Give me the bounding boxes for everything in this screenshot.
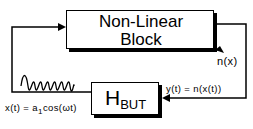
arrow-into-hbut-icon xyxy=(162,94,170,102)
nonlinear-block-title-line2: Block xyxy=(91,31,191,49)
output-label: y(t) = n(x(t)) xyxy=(166,83,221,94)
nonlinear-block-title-line1: Non-Linear xyxy=(91,13,191,31)
input-label-suffix: cos(ωt) xyxy=(43,102,77,113)
hbut-main: H xyxy=(105,86,120,109)
nx-label: n(x) xyxy=(217,55,238,67)
input-label: x(t) = a1cos(ωt) xyxy=(5,102,77,116)
sine-wave-icon xyxy=(21,76,74,92)
input-label-prefix: x(t) = a xyxy=(5,102,38,113)
arrow-into-nonlinear-icon xyxy=(58,23,66,31)
hbut-subscript: BUT xyxy=(120,97,146,112)
nonlinear-block: Non-Linear Block xyxy=(66,10,214,49)
hbut-block: HBUT xyxy=(91,82,159,115)
